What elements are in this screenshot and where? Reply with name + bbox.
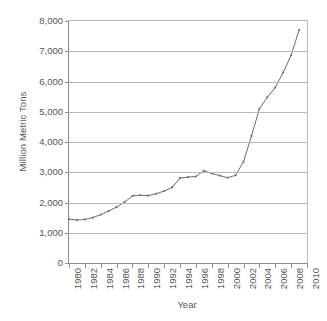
gridline: [69, 233, 307, 234]
x-axis-tick-label: 1980: [72, 268, 83, 289]
data-point-marker: [147, 195, 149, 197]
y-axis-tick-label: 2,000: [39, 196, 63, 207]
data-point-marker: [155, 193, 157, 195]
data-point-marker: [282, 72, 284, 74]
data-point-marker: [266, 96, 268, 98]
data-point-marker: [259, 108, 261, 110]
y-axis-tick-labels: 01,0002,0003,0004,0005,0006,0007,0008,00…: [26, 0, 66, 276]
data-point-marker: [100, 214, 102, 216]
data-point-marker: [171, 186, 173, 188]
data-point-marker: [132, 195, 134, 197]
x-axis-tick-label: 2008: [294, 268, 305, 289]
data-point-marker: [116, 206, 118, 208]
y-axis-tick-label: 0: [58, 257, 63, 268]
data-point-marker: [108, 210, 110, 212]
x-axis-tick-label: 1990: [151, 268, 162, 289]
x-axis-title: Year: [68, 299, 306, 310]
gridline: [69, 82, 307, 83]
x-axis-tick-labels: 1980198219841986198819901992199419961998…: [68, 268, 306, 298]
line-chart: Million Metric Tons 01,0002,0003,0004,00…: [0, 0, 327, 321]
y-axis-tick-mark: [65, 21, 69, 22]
data-point-marker: [235, 174, 237, 176]
data-point-marker: [163, 190, 165, 192]
y-axis-tick-label: 3,000: [39, 166, 63, 177]
data-point-marker: [290, 54, 292, 56]
x-axis-tick-label: 2000: [231, 268, 242, 289]
data-point-marker: [187, 176, 189, 178]
gridline: [69, 203, 307, 204]
data-point-marker: [298, 29, 300, 31]
x-axis-tick-label: 1988: [135, 268, 146, 289]
data-point-marker: [140, 194, 142, 196]
y-axis-tick-label: 6,000: [39, 75, 63, 86]
data-point-marker: [243, 161, 245, 163]
data-point-marker: [251, 135, 253, 137]
y-axis-tick-label: 7,000: [39, 45, 63, 56]
x-axis-tick-label: 2006: [278, 268, 289, 289]
data-point-marker: [92, 217, 94, 219]
data-point-marker: [227, 177, 229, 179]
data-point-marker: [84, 219, 86, 221]
x-axis-tick-label: 1998: [215, 268, 226, 289]
y-axis-tick-label: 1,000: [39, 226, 63, 237]
gridline: [69, 172, 307, 173]
y-axis-tick-label: 8,000: [39, 15, 63, 26]
series-polyline: [69, 30, 299, 220]
x-axis-tick-label: 2002: [247, 268, 258, 289]
x-axis-tick-label: 1986: [120, 268, 131, 289]
x-axis-tick-label: 1994: [183, 268, 194, 289]
data-point-marker: [219, 175, 221, 177]
x-axis-tick-mark: [307, 264, 308, 268]
x-axis-tick-label: 1996: [199, 268, 210, 289]
gridline: [69, 112, 307, 113]
x-axis-tick-label: 2010: [310, 268, 321, 289]
x-axis-tick-label: 1982: [88, 268, 99, 289]
plot-area: [68, 20, 308, 264]
data-point-marker: [195, 176, 197, 178]
data-point-marker: [179, 177, 181, 179]
y-axis-tick-label: 5,000: [39, 105, 63, 116]
x-axis-tick-label: 1984: [104, 268, 115, 289]
gridline: [69, 142, 307, 143]
gridline: [69, 51, 307, 52]
y-axis-tick-label: 4,000: [39, 136, 63, 147]
data-point-marker: [68, 218, 70, 220]
x-axis-tick-label: 1992: [167, 268, 178, 289]
data-point-marker: [76, 219, 78, 221]
data-point-marker: [274, 87, 276, 89]
x-axis-tick-label: 2004: [262, 268, 273, 289]
